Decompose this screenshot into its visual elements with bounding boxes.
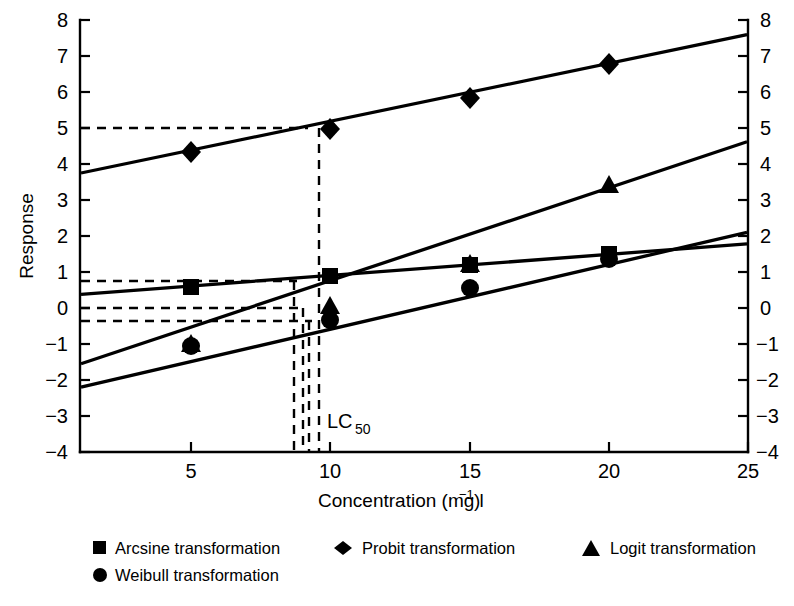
- y2-ticklabel-neg1: −1: [756, 333, 779, 355]
- legend-marker-triangle-icon: [582, 540, 600, 556]
- legend-marker-diamond-icon: [334, 541, 352, 555]
- legend-marker-circle-icon: [93, 568, 107, 582]
- y-ticklabel-5: 5: [57, 117, 68, 139]
- marker-probit-x20: [599, 53, 619, 75]
- series-line-probit: [81, 35, 747, 173]
- y2-ticklabel-0: 0: [760, 297, 771, 319]
- y2-ticklabel-neg2: −2: [756, 369, 779, 391]
- y-ticklabel-1: 1: [57, 261, 68, 283]
- left-axis-ticklabels: 8 7 6 5 4 3 2 1 0 −1 −2 −3 −4: [45, 9, 68, 463]
- legend-label-arcsine: Arcsine transformation: [115, 539, 280, 557]
- marker-arcsine-x10: [322, 268, 338, 284]
- x-axis-ticks: [191, 442, 748, 452]
- series-markers-weibull: [182, 250, 618, 355]
- lc50-annotation: LC 50: [327, 410, 371, 437]
- y2-ticklabel-4: 4: [760, 153, 771, 175]
- lc50-subscript: 50: [355, 421, 371, 437]
- legend-label-logit: Logit transformation: [610, 539, 756, 557]
- y-ticklabel-6: 6: [57, 81, 68, 103]
- marker-weibull-x20: [600, 250, 618, 268]
- x-ticklabel-25: 25: [737, 460, 759, 482]
- series-line-weibull: [81, 232, 747, 387]
- y2-ticklabel-2: 2: [760, 225, 771, 247]
- marker-weibull-x10: [321, 311, 339, 329]
- y-ticklabel-neg2: −2: [45, 369, 68, 391]
- y-axis-title: Response: [16, 193, 37, 279]
- y2-ticklabel-6: 6: [760, 81, 771, 103]
- legend-label-weibull: Weibull transformation: [115, 566, 279, 584]
- legend: Arcsine transformation Probit transforma…: [93, 539, 756, 584]
- legend-label-probit: Probit transformation: [362, 539, 515, 557]
- right-axis-ticklabels: 8 7 6 5 4 3 2 1 0 −1 −2 −3 −4: [756, 9, 779, 463]
- axes-group: [80, 20, 748, 452]
- x-axis-title-exponent: −1: [459, 487, 474, 502]
- y-ticklabel-4: 4: [57, 153, 68, 175]
- y-ticklabel-3: 3: [57, 189, 68, 211]
- y2-ticklabel-3: 3: [760, 189, 771, 211]
- series-lines-group: [81, 35, 747, 388]
- y-ticklabel-0: 0: [57, 297, 68, 319]
- y-ticklabel-2: 2: [57, 225, 68, 247]
- marker-weibull-x15: [461, 279, 479, 297]
- x-axis-title-suffix: ): [474, 490, 480, 511]
- legend-marker-square-icon: [93, 541, 106, 554]
- marker-weibull-x5: [182, 337, 200, 355]
- y-ticklabel-neg1: −1: [45, 333, 68, 355]
- y2-ticklabel-neg3: −3: [756, 405, 779, 427]
- x-ticklabel-10: 10: [319, 460, 341, 482]
- x-ticklabel-20: 20: [598, 460, 620, 482]
- y2-ticklabel-7: 7: [760, 45, 771, 67]
- y2-ticklabel-5: 5: [760, 117, 771, 139]
- series-markers-logit: [181, 175, 619, 352]
- lc50-label: LC: [327, 410, 353, 432]
- y-ticklabel-7: 7: [57, 45, 68, 67]
- x-axis-ticklabels: 5 10 15 20 25: [185, 460, 759, 482]
- y-ticklabel-8: 8: [57, 9, 68, 31]
- chart-svg: 8 7 6 5 4 3 2 1 0 −1 −2 −3 −4: [0, 0, 794, 606]
- y-ticklabel-neg4: −4: [45, 441, 68, 463]
- x-ticklabel-5: 5: [185, 460, 196, 482]
- y2-ticklabel-1: 1: [760, 261, 771, 283]
- figure-container: 8 7 6 5 4 3 2 1 0 −1 −2 −3 −4: [0, 0, 794, 606]
- x-ticklabel-15: 15: [459, 460, 481, 482]
- x-axis-title: Concentration (mg l −1 ): [318, 487, 484, 511]
- y2-ticklabel-neg4: −4: [756, 441, 779, 463]
- marker-probit-x5: [181, 141, 201, 163]
- y-ticklabel-neg3: −3: [45, 405, 68, 427]
- marker-arcsine-x5: [183, 279, 199, 295]
- y2-ticklabel-8: 8: [760, 9, 771, 31]
- right-axis-ticks: [738, 20, 748, 416]
